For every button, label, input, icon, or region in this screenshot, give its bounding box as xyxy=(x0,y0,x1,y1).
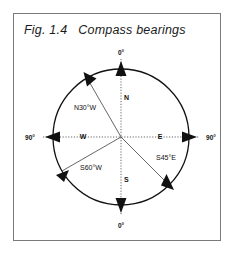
degree-label-bottom: 0° xyxy=(118,222,125,229)
bearing-label-n30w: N30°W xyxy=(74,104,97,111)
degree-label-top: 0° xyxy=(118,49,125,56)
cardinal-label-south: S xyxy=(124,176,129,183)
bearing-label-s45e: S45°E xyxy=(156,154,176,161)
compass-diagram: N S W E 0° 0° 90° 90° N30°W S60°W S45°E xyxy=(0,0,236,256)
figure-container: Fig. 1.4 Compass bearings N S W E xyxy=(0,0,236,256)
degree-label-right: 90° xyxy=(206,134,216,141)
degree-label-left: 90° xyxy=(25,134,35,141)
cardinal-label-east: E xyxy=(158,133,163,140)
cardinal-label-north: N xyxy=(124,94,129,101)
cardinal-label-west: W xyxy=(80,133,87,140)
bearing-label-s60w: S60°W xyxy=(80,164,102,171)
